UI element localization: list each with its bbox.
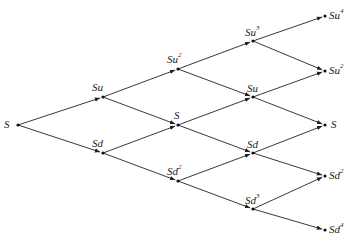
- node-label-base: Su: [167, 53, 178, 65]
- node-label-n3u3: Su3: [245, 27, 260, 38]
- binomial-tree-diagram: SSuSdSu2SSd2Su3SuSdSd3Su4Su2SSd2Sd4: [0, 0, 355, 240]
- node-label-base: Sd: [92, 137, 103, 149]
- tree-node-dot: [251, 151, 254, 154]
- tree-edge: [103, 70, 175, 97]
- tree-edge: [253, 153, 322, 175]
- tree-node-dot: [101, 95, 104, 98]
- node-label-base: Sd: [329, 169, 340, 181]
- tree-edge: [178, 125, 250, 152]
- node-label-n2uu: Su2: [167, 54, 182, 65]
- node-label-n4u4: Su4: [329, 10, 344, 21]
- tree-edge: [18, 125, 100, 152]
- node-label-base: S: [331, 118, 337, 130]
- tree-node-dot: [251, 207, 254, 210]
- tree-node-dot: [176, 179, 179, 182]
- node-label-exponent: 2: [178, 163, 182, 171]
- tree-edge: [178, 181, 250, 208]
- tree-node-dot: [16, 123, 19, 126]
- node-label-exponent: 3: [256, 192, 260, 200]
- node-label-base: Sd: [329, 223, 340, 235]
- tree-edge: [253, 177, 322, 209]
- node-label-base: Sd: [245, 194, 256, 206]
- node-label-n1u: Su: [92, 82, 103, 93]
- node-label-exponent: 3: [256, 24, 260, 32]
- node-label-n1d: Sd: [92, 138, 103, 149]
- tree-edge: [18, 98, 100, 125]
- tree-node-dot: [323, 174, 326, 177]
- node-label-exponent: 4: [340, 221, 344, 229]
- node-label-base: Sd: [247, 138, 258, 150]
- tree-node-dot: [323, 69, 326, 72]
- tree-node-dot: [176, 123, 179, 126]
- node-label-base: Su: [245, 26, 256, 38]
- tree-node-dot: [101, 151, 104, 154]
- tree-node-dot: [176, 67, 179, 70]
- node-label-base: Sd: [167, 165, 178, 177]
- node-label-n4u2: Su2: [329, 65, 344, 76]
- tree-edge: [253, 97, 322, 124]
- tree-edge: [253, 17, 322, 41]
- node-label-exponent: 4: [340, 7, 344, 15]
- node-label-n4d2: Sd2: [329, 170, 344, 181]
- node-label-base: Su: [329, 64, 340, 76]
- node-label-n3d3: Sd3: [245, 195, 260, 206]
- node-label-n3u: Su: [247, 83, 258, 94]
- tree-node-dot: [323, 228, 326, 231]
- tree-edge: [253, 126, 322, 153]
- tree-edge: [103, 126, 175, 153]
- tree-edge: [103, 97, 175, 124]
- node-label-n4d4: Sd4: [329, 224, 344, 235]
- tree-edge: [253, 209, 322, 229]
- node-label-exponent: 2: [178, 51, 182, 59]
- node-label-base: S: [174, 109, 180, 121]
- node-label-n4s: S: [331, 119, 337, 130]
- tree-edge: [178, 42, 250, 69]
- tree-node-dot: [323, 123, 326, 126]
- node-label-n0: S: [4, 119, 10, 130]
- node-label-n2dd: Sd2: [167, 166, 182, 177]
- tree-edge: [178, 69, 250, 96]
- node-label-exponent: 2: [340, 62, 344, 70]
- node-label-n3d: Sd: [247, 139, 258, 150]
- node-label-base: S: [4, 118, 10, 130]
- tree-edge: [178, 154, 250, 181]
- node-label-n2ud: S: [174, 110, 180, 121]
- node-label-base: Su: [92, 81, 103, 93]
- node-label-base: Su: [247, 82, 258, 94]
- node-label-base: Su: [329, 9, 340, 21]
- tree-edge: [103, 153, 175, 180]
- tree-node-dot: [251, 95, 254, 98]
- tree-edge: [253, 72, 322, 97]
- tree-edge: [253, 41, 322, 70]
- tree-node-dot: [251, 39, 254, 42]
- tree-node-dot: [323, 14, 326, 17]
- tree-edge: [178, 98, 250, 125]
- node-label-exponent: 2: [340, 167, 344, 175]
